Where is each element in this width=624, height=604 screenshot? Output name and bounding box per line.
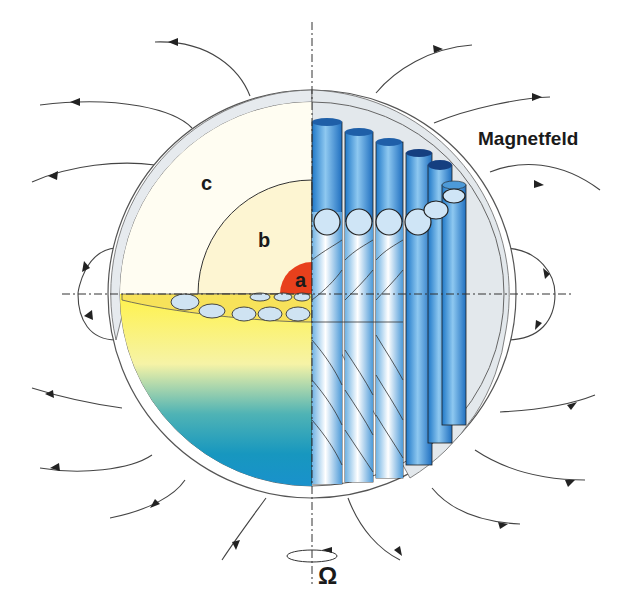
- omega-label: Ω: [318, 562, 337, 589]
- geodynamo-diagram: Ω c b a Magnetfeld: [0, 0, 624, 604]
- layer-label-c: c: [201, 172, 212, 194]
- layer-label-a: a: [295, 269, 307, 291]
- convection-columns: [312, 118, 466, 484]
- diagram-canvas: Ω c b a Magnetfeld: [0, 0, 624, 604]
- layer-label-b: b: [258, 229, 270, 251]
- magnetfeld-label: Magnetfeld: [478, 128, 578, 149]
